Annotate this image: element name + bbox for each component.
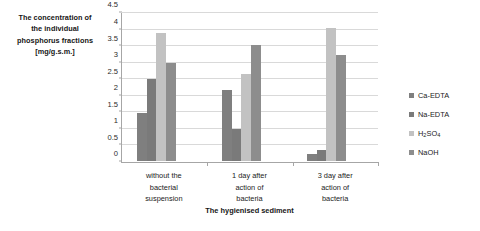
bar [317,150,327,161]
x-axis-category-label-line: bacteria [292,193,378,205]
x-axis-category-label-line: suspension [121,193,207,205]
chart-legend: Ca-EDTANa-EDTAH2SO4NaOH [409,86,477,162]
y-axis-tick-label: 2.5 [107,68,118,76]
legend-swatch-icon [409,131,414,136]
y-axis-tick-mark [119,45,122,46]
y-axis-tick-label: 3.5 [107,35,118,43]
legend-label: Na-EDTA [418,111,449,118]
legend-swatch-icon [409,112,414,117]
y-axis-tick-label: 1 [114,118,118,126]
x-axis-category-label-line: bacteria [207,193,293,205]
y-axis-title-line: The concentration of [6,12,104,23]
bars-layer [123,13,378,161]
y-axis-tick-mark [119,12,122,13]
bar [156,33,166,161]
y-axis-title-line: the individual [6,23,104,34]
x-axis-category-label: without thebacterialsuspension [121,170,207,205]
legend-item[interactable]: H2SO4 [409,124,477,143]
y-axis-tick-mark [119,28,122,29]
y-axis-tick-mark [119,61,122,62]
legend-swatch-icon [409,93,414,98]
y-axis-tick-mark [119,127,122,128]
bar [336,55,346,161]
y-axis-tick-label: 3 [114,51,118,59]
x-axis-category-label-line: 3 day after [292,170,378,182]
legend-label: NaOH [418,149,439,156]
y-axis-tick-mark [119,94,122,95]
y-axis-tick-label: 4 [114,18,118,26]
bar [251,45,261,161]
x-axis-category-label-line: without the [121,170,207,182]
legend-item[interactable]: Na-EDTA [409,105,477,124]
y-axis-title-line: [mg/g.s.m.] [6,46,104,57]
bar-group [222,13,261,161]
x-axis-category-label: 3 day afteraction ofbacteria [292,170,378,205]
bar [166,63,176,161]
legend-swatch-icon [409,150,414,155]
x-axis-title: The hygienised sediment [121,206,378,215]
x-axis-tick-mark [378,162,379,166]
legend-label: Ca-EDTA [418,92,449,99]
y-axis-tick-label: 4.5 [107,2,118,10]
x-axis-category-label-line: 1 day after [207,170,293,182]
x-axis-category-label-line: action of [292,182,378,194]
bar [147,79,157,161]
x-axis-tick-mark [207,162,208,166]
y-axis-tick-mark [119,111,122,112]
bar-group [137,13,176,161]
x-axis-category-label-line: bacterial [121,182,207,194]
y-axis-tick-label: 0.5 [107,134,118,142]
y-axis-tick-label: 0 [114,151,118,159]
x-axis-category-labels: without thebacterialsuspension1 day afte… [121,170,378,208]
legend-item[interactable]: NaOH [409,143,477,162]
y-axis-tick-label: 2 [114,84,118,92]
legend-item[interactable]: Ca-EDTA [409,86,477,105]
y-axis-title: The concentration ofthe individualphosph… [6,12,104,57]
y-axis-tick-mark [119,161,122,162]
legend-label: H2SO4 [418,130,440,138]
x-axis-category-label-line: action of [207,182,293,194]
y-axis-title-line: phosphorus fractions [6,35,104,46]
bar [222,90,232,161]
bar-chart: The concentration ofthe individualphosph… [0,0,480,231]
bar [232,129,242,161]
bar-group [307,13,346,161]
x-axis-tick-mark [293,162,294,166]
bar [326,28,336,161]
bar [241,74,251,161]
bar [137,113,147,161]
bar [307,154,317,161]
y-axis-tick-mark [119,78,122,79]
y-axis-tick-mark [119,144,122,145]
x-axis-category-label: 1 day afteraction ofbacteria [207,170,293,205]
y-axis-tick-label: 1.5 [107,101,118,109]
plot-area: 00.511.522.533.544.5 [121,13,378,163]
